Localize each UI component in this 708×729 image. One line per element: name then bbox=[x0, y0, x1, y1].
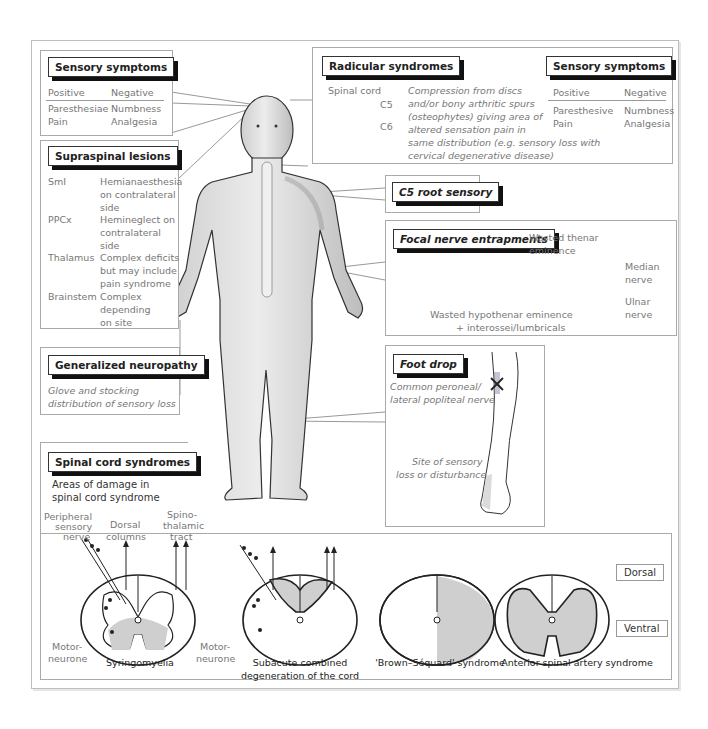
c6-label: C6 bbox=[380, 120, 393, 133]
lesion-desc: contralateral bbox=[100, 226, 161, 239]
peripheral-nerve-label: nerve bbox=[63, 530, 90, 543]
median-nerve-label: nerve bbox=[625, 273, 652, 286]
lesion-desc: on contralateral bbox=[100, 188, 176, 201]
lesion-site: Thalamus bbox=[48, 251, 94, 264]
symptom-positive: Pain bbox=[48, 115, 68, 128]
motor-neurone-label: neurone bbox=[196, 652, 235, 665]
sensory-loss-label: Site of sensory bbox=[412, 455, 483, 468]
ulnar-nerve-label: nerve bbox=[625, 308, 652, 321]
ulnar-nerve-label: Ulnar bbox=[625, 295, 650, 308]
symptom-negative: Numbness bbox=[111, 102, 161, 115]
sensory-symptoms-left-title: Sensory symptoms bbox=[48, 57, 174, 77]
radicular-desc: cervical degenerative disease) bbox=[408, 149, 554, 162]
symptom-positive: Pain bbox=[553, 117, 573, 130]
lesion-desc: but may include bbox=[100, 264, 177, 277]
radicular-desc: and/or bony arthritic spurs bbox=[408, 97, 535, 110]
symptom-negative: Analgesia bbox=[624, 117, 670, 130]
peroneal-nerve-label: Common peroneal/ bbox=[390, 380, 481, 393]
dorsal-label: Dorsal bbox=[616, 564, 664, 581]
lesion-desc: depending bbox=[100, 303, 151, 316]
c5-label: C5 bbox=[380, 98, 393, 111]
divider bbox=[46, 100, 164, 101]
spinal-subtitle: Areas of damage in bbox=[52, 478, 149, 491]
hypothenar-label: Wasted hypothenar eminence bbox=[430, 308, 573, 321]
median-nerve-label: Median bbox=[625, 260, 660, 273]
syndrome-caption: 'Brown–Séquard' syndrome bbox=[375, 656, 505, 669]
lesion-desc: Complex bbox=[100, 290, 142, 303]
ventral-label: Ventral bbox=[616, 620, 668, 637]
spinal-cord-syndromes-title: Spinal cord syndromes bbox=[48, 452, 197, 472]
lesion-desc: Hemianaesthesia bbox=[100, 175, 182, 188]
col-negative: Negative bbox=[624, 86, 667, 99]
lesion-desc: on site bbox=[100, 316, 132, 329]
lesion-desc: Complex deficits bbox=[100, 251, 179, 264]
supraspinal-lesions-title: Supraspinal lesions bbox=[48, 146, 178, 166]
syndrome-caption: Subacute combined bbox=[240, 656, 360, 669]
peroneal-nerve-label: lateral popliteal nerve bbox=[390, 393, 495, 406]
radicular-syndromes-title: Radicular syndromes bbox=[322, 56, 460, 76]
symptom-negative: Numbness bbox=[624, 104, 674, 117]
col-negative: Negative bbox=[111, 86, 154, 99]
symptom-positive: Paresthesive bbox=[553, 104, 613, 117]
foot-drop-title: Foot drop bbox=[393, 354, 464, 374]
spinal-cord-label: Spinal cord bbox=[328, 84, 381, 97]
neuropathy-desc: distribution of sensory loss bbox=[48, 397, 176, 410]
col-positive: Positive bbox=[48, 86, 85, 99]
syndrome-caption: Anterior spinal artery syndrome bbox=[492, 656, 662, 669]
lesion-desc: pain syndrome bbox=[100, 277, 171, 290]
col-positive: Positive bbox=[553, 86, 590, 99]
syndrome-caption: Syringomyelia bbox=[95, 656, 185, 669]
hypothenar-label: + interossei/lumbricals bbox=[456, 321, 565, 334]
sensory-symptoms-right-title: Sensory symptoms bbox=[546, 56, 672, 76]
lesion-site: SmI bbox=[48, 175, 66, 188]
motor-neurone-label: neurone bbox=[48, 652, 87, 665]
spinal-subtitle: spinal cord syndrome bbox=[52, 491, 160, 504]
divider bbox=[548, 100, 666, 101]
dorsal-columns-label: columns bbox=[106, 530, 146, 543]
lesion-site: Brainstem bbox=[48, 290, 97, 303]
radicular-desc: altered sensation pain in bbox=[408, 123, 526, 136]
thenar-label: eminence bbox=[529, 244, 576, 257]
radicular-desc: same distribution (e.g. sensory loss wit… bbox=[408, 136, 600, 149]
c5-root-title: C5 root sensory bbox=[392, 182, 499, 202]
spinothalamic-label: tract bbox=[170, 530, 192, 543]
radicular-desc: Compression from discs bbox=[408, 84, 522, 97]
lesion-desc: Hemineglect on bbox=[100, 213, 175, 226]
thenar-label: Wasted thenar bbox=[529, 231, 599, 244]
generalized-neuropathy-title: Generalized neuropathy bbox=[48, 355, 205, 375]
sensory-loss-label: loss or disturbance bbox=[396, 468, 486, 481]
syndrome-caption: degeneration of the cord bbox=[230, 669, 370, 682]
symptom-negative: Analgesia bbox=[111, 115, 157, 128]
radicular-desc: (osteophytes) giving area of bbox=[408, 110, 542, 123]
neuropathy-desc: Glove and stocking bbox=[48, 384, 139, 397]
symptom-positive: Paresthesiae bbox=[48, 102, 108, 115]
lesion-site: PPCx bbox=[48, 213, 72, 226]
